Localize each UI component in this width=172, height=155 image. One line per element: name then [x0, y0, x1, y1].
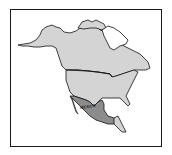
central-america-region: [114, 116, 126, 132]
canada-alaska-region: [18, 23, 150, 77]
north-america-map: [0, 0, 172, 155]
